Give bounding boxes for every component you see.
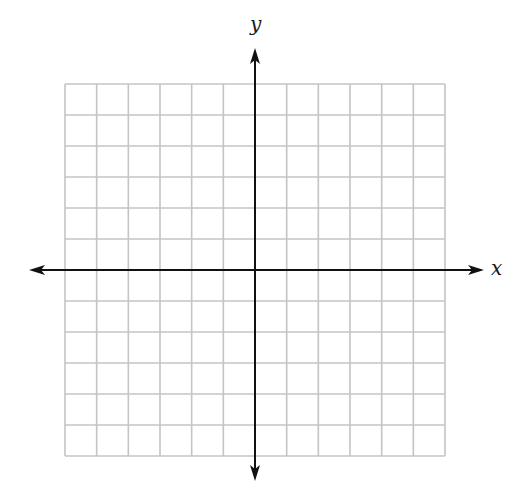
coordinate-plane bbox=[0, 0, 517, 489]
x-axis-label: x bbox=[491, 258, 502, 278]
y-axis-label: y bbox=[250, 14, 261, 34]
